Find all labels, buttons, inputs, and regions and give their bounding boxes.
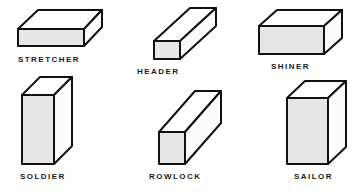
rowlock-front-face xyxy=(159,132,185,164)
brick-label-stretcher: STRETCHER xyxy=(18,56,80,64)
brick-shiner xyxy=(256,8,348,58)
soldier-shape xyxy=(18,74,92,168)
soldier-front-face xyxy=(22,95,54,164)
stretcher-front-face xyxy=(18,29,84,46)
brick-sailor xyxy=(284,78,356,168)
brick-label-soldier: SOLDIER xyxy=(20,173,66,181)
stretcher-shape xyxy=(14,8,110,54)
header-shape xyxy=(134,6,220,64)
brick-rowlock xyxy=(140,88,226,168)
sailor-front-face xyxy=(287,98,328,164)
brick-soldier xyxy=(18,74,92,168)
header-front-face xyxy=(154,41,180,59)
brick-label-shiner: SHINER xyxy=(271,63,310,71)
shiner-front-face xyxy=(259,26,324,54)
brick-position-diagram: STRETCHER HEADER SHINER xyxy=(0,0,360,192)
brick-label-header: HEADER xyxy=(137,68,179,76)
brick-label-sailor: SAILOR xyxy=(294,173,333,181)
brick-header xyxy=(134,6,220,64)
brick-label-rowlock: ROWLOCK xyxy=(149,173,201,181)
rowlock-shape xyxy=(140,88,226,168)
shiner-shape xyxy=(256,8,348,58)
brick-stretcher xyxy=(14,8,110,54)
sailor-shape xyxy=(284,78,356,168)
